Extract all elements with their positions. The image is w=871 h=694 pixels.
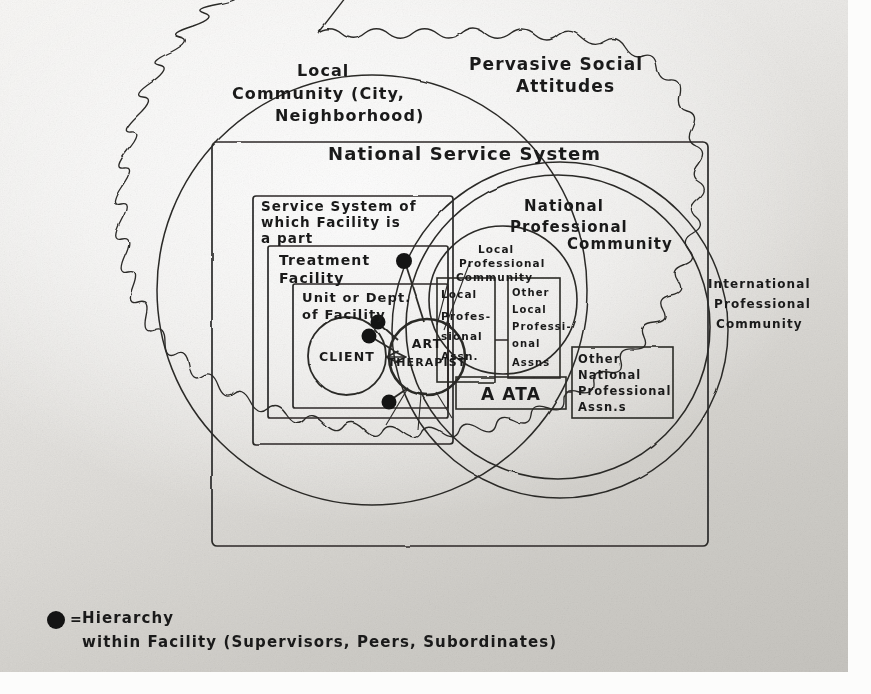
national-professional-community-label-l1: National <box>524 197 604 215</box>
local-professional-community-label-l2: Professional <box>459 257 545 269</box>
local-community-label-l1: Local <box>297 61 349 80</box>
service-system-label-l3: a part <box>261 230 313 246</box>
local-community-label-l2: Community (City, <box>232 84 405 103</box>
unit-or-dept-label-l2: of Facility <box>302 307 386 322</box>
local-community-label-l3: Neighborhood) <box>275 106 424 125</box>
local-professional-assn-label-l1: Local <box>441 288 477 300</box>
local-professional-assn-label-l3: sional <box>441 330 483 342</box>
international-professional-community-label-l3: Community <box>716 317 803 331</box>
other-local-professional-assns-label-l4: onal <box>512 338 541 349</box>
hierarchy-dot-4 <box>382 395 397 410</box>
other-national-professional-assns-label-l2: National <box>578 368 641 382</box>
legend-line-1: Hierarchy <box>82 609 174 627</box>
pervasive-social-attitudes-label-l1: Pervasive Social <box>469 54 643 74</box>
other-local-professional-assns-label-l2: Local <box>512 304 547 315</box>
other-local-professional-assns-label-l5: Assns <box>512 357 550 368</box>
diagram-page: Pervasive Social Attitudes Local Communi… <box>0 0 871 694</box>
national-professional-community-label-l2: Professional <box>510 218 628 236</box>
pervasive-social-attitudes-label-l2: Attitudes <box>516 76 615 96</box>
other-local-professional-assns-label-l3: Professi- <box>512 321 572 332</box>
local-professional-community-label-l3: Community <box>456 271 533 283</box>
local-professional-assn-label-l2: Profes- <box>441 310 491 322</box>
other-national-professional-assns-label-l3: Professional <box>578 384 671 398</box>
treatment-facility-label-l2: Facility <box>279 270 345 286</box>
legend-line-2: within Facility (Supervisors, Peers, Sub… <box>82 633 557 651</box>
hierarchy-stem-2 <box>381 325 398 340</box>
therapist-link-c <box>436 392 452 418</box>
international-professional-community-label-l2: Professional <box>714 297 811 311</box>
national-professional-community-label-l3: Community <box>567 235 673 253</box>
client-label: CLIENT <box>319 349 375 364</box>
aata-label: A ATA <box>481 384 541 404</box>
hierarchy-dot-1 <box>396 253 412 269</box>
service-system-label-l2: which Facility is <box>261 214 401 230</box>
hierarchy-dot-3 <box>362 329 377 344</box>
legend-dot-icon <box>47 611 65 629</box>
international-professional-community-label-l1: International <box>708 277 811 291</box>
local-professional-community-label-l1: Local <box>478 243 514 255</box>
art-therapist-label-l1: ART <box>412 336 443 351</box>
local-professional-assn-label-l4: Assn. <box>441 350 479 362</box>
other-local-professional-assns-label-l1: Other <box>512 287 550 298</box>
legend-equals-sign: = <box>70 611 83 627</box>
unit-or-dept-label-l1: Unit or Dept. <box>302 290 411 305</box>
national-service-system-label: National Service System <box>328 143 601 164</box>
other-national-professional-assns-label-l1: Other <box>578 352 620 366</box>
service-system-label-l1: Service System of <box>261 198 417 214</box>
diagram-drawing: Pervasive Social Attitudes Local Communi… <box>0 0 871 694</box>
other-national-professional-assns-label-l4: Assn.s <box>578 400 627 414</box>
treatment-facility-label-l1: Treatment <box>279 252 370 268</box>
